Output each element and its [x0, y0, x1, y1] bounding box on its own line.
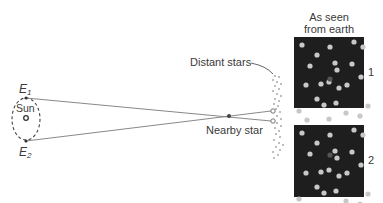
star-dot: [318, 81, 323, 86]
projected-position-1: [271, 109, 275, 113]
star-dot: [326, 116, 331, 121]
e1-label: E1: [19, 82, 31, 97]
star-dot: [314, 52, 319, 57]
star-dot: [349, 61, 354, 66]
star-dot: [327, 44, 332, 49]
nearby-star-image: [327, 76, 332, 81]
star-dot: [326, 167, 331, 172]
panel-2-number: 2: [368, 154, 374, 166]
star-dot: [343, 198, 348, 203]
distant-stars-leader: [251, 63, 273, 74]
projected-position-2: [271, 119, 275, 123]
sun-label: Sun: [16, 102, 35, 114]
star-dot: [299, 130, 304, 135]
nearby-star-image: [327, 152, 332, 157]
star-dot: [344, 170, 349, 175]
star-dot: [314, 140, 319, 145]
distant-stars-label: Distant stars: [190, 56, 252, 68]
star-dot: [351, 127, 356, 132]
star-dot: [358, 74, 363, 79]
star-dot: [351, 39, 356, 44]
star-dot: [303, 82, 308, 87]
star-dot: [318, 169, 323, 174]
star-dot: [365, 191, 370, 196]
star-dot: [296, 108, 301, 113]
star-dot: [327, 132, 332, 137]
star-dot: [336, 173, 341, 178]
star-dot: [360, 44, 365, 49]
star-dot: [307, 151, 312, 156]
panel-1-number: 1: [368, 66, 374, 78]
panel-header-line2: from earth: [304, 23, 354, 35]
star-dot: [314, 96, 319, 101]
star-dot: [304, 117, 309, 122]
star-dot: [349, 149, 354, 154]
star-dot: [365, 103, 370, 108]
star-dot: [303, 170, 308, 175]
nearby-star: [227, 114, 231, 118]
star-dot: [321, 102, 326, 107]
star-dot: [358, 162, 363, 167]
star-dot: [357, 201, 362, 203]
sight-line-e1: [26, 98, 271, 121]
star-dot: [357, 113, 362, 118]
star-dot: [307, 63, 312, 68]
star-dot: [334, 67, 339, 72]
star-dot: [344, 82, 349, 87]
star-dot: [333, 188, 338, 193]
nearby-star-label: Nearby star: [206, 124, 263, 136]
star-dot: [336, 85, 341, 90]
distant-stars-cluster: [272, 75, 284, 159]
panel-header-line1: As seen: [309, 11, 349, 23]
earth-position-2: [24, 139, 27, 142]
sun-icon: [24, 116, 29, 121]
e2-label: E2: [19, 145, 32, 160]
star-dot: [296, 196, 301, 201]
star-dot: [299, 42, 304, 47]
star-dot: [332, 148, 337, 153]
star-dot: [343, 110, 348, 115]
star-dot: [332, 60, 337, 65]
star-dot: [333, 100, 338, 105]
star-dot: [360, 132, 365, 137]
star-dot: [314, 184, 319, 189]
parallax-diagram: Sun E1 E2 Nearby star Distant stars As s…: [0, 0, 383, 203]
star-dot: [334, 155, 339, 160]
star-dot: [321, 190, 326, 195]
